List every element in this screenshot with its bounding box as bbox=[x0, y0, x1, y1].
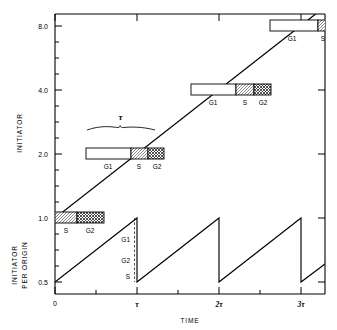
bar-segment-S bbox=[131, 148, 148, 159]
bar-segment-G1 bbox=[86, 148, 131, 159]
x-axis-label: TIME bbox=[180, 317, 199, 324]
bar-segment-G1 bbox=[191, 84, 236, 95]
y-tick-label-8: 8.0 bbox=[38, 23, 48, 30]
chart-canvas: 8.0 4.0 2.0 1.0 0.5 0 τ 2τ 3τ TIME INITI… bbox=[0, 0, 337, 330]
bar-segment-S bbox=[55, 212, 77, 223]
bar-label-G2: G2 bbox=[153, 163, 162, 170]
y-axis-label-upper: INITIATOR bbox=[16, 113, 23, 153]
y-tick-label-1: 1.0 bbox=[38, 215, 48, 222]
bar-label-G1: G1 bbox=[209, 99, 218, 106]
bar-segment-G2 bbox=[254, 84, 271, 95]
y-tick-label-0-5: 0.5 bbox=[38, 279, 48, 286]
y-axis-label-lower-line1: INITIATOR bbox=[11, 245, 18, 285]
bar-label-G1: G1 bbox=[288, 35, 297, 42]
y-axis-label-lower-line2: PER ORIGIN bbox=[21, 241, 28, 288]
bar-label-S: S bbox=[64, 227, 69, 234]
y-tick-label-4: 4.0 bbox=[38, 87, 48, 94]
bar-segment-G2 bbox=[77, 212, 104, 223]
bar-label-G1: G1 bbox=[104, 163, 113, 170]
bar-label-S: S bbox=[137, 163, 142, 170]
chart-background bbox=[0, 0, 337, 330]
bar-segment-G2 bbox=[148, 148, 164, 159]
x-tick-label-3tau: 3τ bbox=[296, 300, 305, 309]
sawtooth-label-G1: G1 bbox=[121, 236, 130, 243]
bar-label-G2: G2 bbox=[259, 99, 268, 106]
bar-segment-S bbox=[236, 84, 254, 95]
y-tick-label-2: 2.0 bbox=[38, 151, 48, 158]
bar-label-S: S bbox=[243, 99, 248, 106]
x-tick-label-0: 0 bbox=[53, 300, 57, 307]
bar-segment-G1 bbox=[270, 20, 318, 31]
x-tick-label-2tau: 2τ bbox=[214, 300, 223, 309]
sawtooth-label-S: S bbox=[126, 273, 131, 280]
figure-initiator-accumulation: 8.0 4.0 2.0 1.0 0.5 0 τ 2τ 3τ TIME INITI… bbox=[0, 0, 337, 330]
bar-label-G2: G2 bbox=[86, 227, 95, 234]
sawtooth-label-G2: G2 bbox=[121, 257, 130, 264]
